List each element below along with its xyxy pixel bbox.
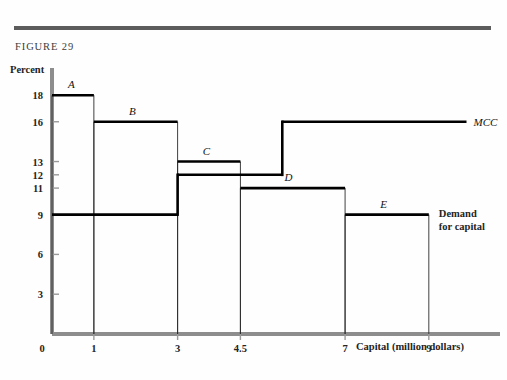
bar-label-e: E	[379, 198, 387, 210]
figure-page: FIGURE 29 Percent Capital (million dolla…	[0, 0, 507, 380]
bar-label-b: B	[129, 105, 136, 117]
y-tick-label: 9	[38, 210, 43, 221]
y-tick-label: 12	[33, 170, 44, 181]
y-tick-group: 3691112131618	[33, 90, 60, 300]
y-tick-label: 13	[33, 157, 44, 168]
y-tick-label: 18	[33, 90, 44, 101]
demand-curve-label-line1: Demand	[439, 208, 477, 219]
chart-canvas: 3691112131618 0134.579 MCCDemandfor capi…	[0, 0, 507, 380]
bar-label-group: ABCDE	[67, 78, 387, 209]
x-tick-label: 3	[175, 343, 180, 354]
y-tick-label: 11	[33, 183, 43, 194]
y-tick-label: 6	[38, 249, 43, 260]
bar-label-c: C	[203, 145, 211, 157]
axes-group	[52, 68, 500, 334]
x-tick-label: 4.5	[234, 343, 247, 354]
x-tick-label: 1	[91, 343, 96, 354]
bar-label-a: A	[67, 78, 75, 90]
x-tick-label: 7	[342, 343, 347, 354]
series-label-group: MCCDemandfor capital	[439, 116, 498, 232]
y-tick-label: 16	[33, 117, 44, 128]
mcc-curve-label: MCC	[473, 116, 499, 128]
bar-label-d: D	[284, 171, 293, 183]
x-tick-label: 9	[426, 343, 431, 354]
x-tick-label: 0	[39, 343, 44, 354]
mcc-step-curve	[52, 120, 467, 215]
y-tick-label: 3	[38, 289, 43, 300]
demand-curve-label-line2: for capital	[439, 221, 485, 232]
